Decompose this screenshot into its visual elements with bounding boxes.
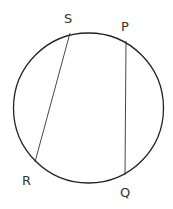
label-q: Q (120, 185, 130, 200)
chord-pq (125, 41, 126, 175)
label-s: S (64, 11, 72, 26)
circle-diagram: S P R Q (0, 0, 173, 209)
diagram-canvas: S P R Q (0, 0, 173, 209)
chord-sr (35, 33, 70, 162)
label-r: R (22, 173, 31, 188)
label-p: P (121, 19, 129, 34)
circle (14, 33, 164, 183)
